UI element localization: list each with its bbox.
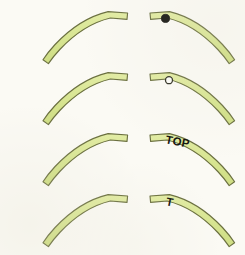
arc-r1-left xyxy=(43,12,128,64)
arc-r4-right: T xyxy=(150,195,235,247)
arc-band-shape xyxy=(43,134,128,186)
arc-r2-right xyxy=(150,73,235,125)
arc-band-shape xyxy=(150,73,235,125)
arc-band-shape xyxy=(150,134,235,186)
arc-r3-right: TOP xyxy=(150,133,235,185)
arc-row-2 xyxy=(43,73,235,125)
arc-label-t: T xyxy=(165,195,174,208)
hollow-circle-marker-icon xyxy=(166,77,173,84)
arc-band-shape xyxy=(43,73,128,125)
arc-row-1 xyxy=(43,12,235,64)
arc-band-shape xyxy=(43,12,128,64)
arc-r3-left xyxy=(43,134,128,186)
arc-row-4: T xyxy=(43,195,235,247)
arc-r1-right xyxy=(150,12,235,64)
arc-band-shape xyxy=(43,195,128,247)
arc-r2-left xyxy=(43,73,128,125)
arc-band-shape xyxy=(150,195,235,247)
arc-row-3: TOP xyxy=(43,133,235,185)
filled-circle-marker-icon xyxy=(161,14,169,22)
arc-canvas: TOP T xyxy=(0,0,245,255)
arc-diagram: TOP T xyxy=(0,0,245,255)
arc-label-top: TOP xyxy=(165,133,191,149)
arc-r4-left xyxy=(43,195,128,247)
